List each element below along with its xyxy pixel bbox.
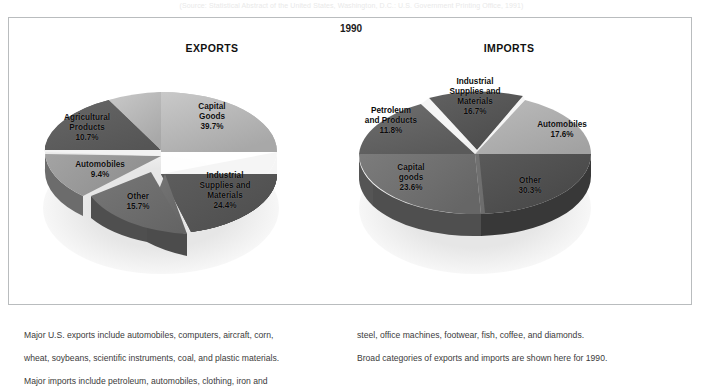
slice-exports-capital-goods-2 (161, 92, 277, 152)
figure-frame: 1990 EXPORTS IMPORTS (8, 17, 692, 305)
caption-line: Major U.S. exports include automobiles, … (24, 330, 354, 342)
caption-line: steel, office machines, footwear, fish, … (357, 330, 687, 342)
panel-title-exports: EXPORTS (112, 42, 312, 54)
pie-chart-exports: Capital Goods 39.7% Industrial Supplies … (31, 56, 321, 300)
pie-chart-imports: Industrial Supplies and Materials 16.7% … (329, 56, 619, 300)
source-credit-line: (Source: Statistical Abstract of the Uni… (0, 0, 703, 12)
panel-title-imports: IMPORTS (409, 42, 609, 54)
pie-imports-slices (359, 92, 591, 214)
pie-imports-svg (329, 56, 619, 296)
caption-line: wheat, soybeans, scientific instruments,… (24, 353, 354, 365)
figure-year-title: 1990 (9, 23, 693, 34)
caption-line: Broad categories of exports and imports … (357, 353, 687, 365)
caption-line: Major imports include petroleum, automob… (24, 376, 354, 388)
caption-left-column: Major U.S. exports include automobiles, … (24, 318, 354, 390)
pie-exports-svg (31, 56, 321, 296)
caption-right-column: steel, office machines, footwear, fish, … (357, 318, 687, 376)
